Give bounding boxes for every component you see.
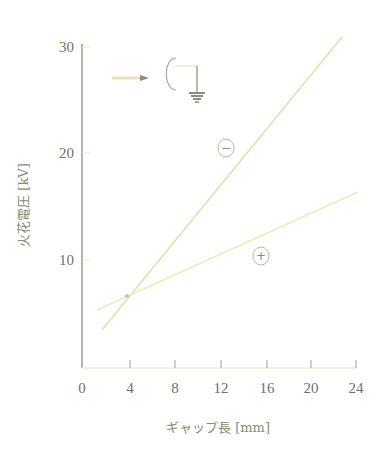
- spark-voltage-chart: 30 20 10 0 4 8 12 16 20 24 ギャップ長 [mm] 火花…: [0, 0, 381, 450]
- series-negative-line: [102, 37, 342, 330]
- negative-symbol: −: [218, 139, 234, 157]
- plate-electrode-icon: [166, 58, 176, 90]
- y-tick-20: 20: [59, 145, 74, 161]
- x-tick-16: 16: [260, 380, 276, 396]
- svg-text:−: −: [221, 141, 231, 155]
- svg-text:+: +: [256, 249, 266, 263]
- y-ticks: 30 20 10: [59, 39, 90, 268]
- positive-symbol: +: [253, 247, 269, 265]
- x-tick-24: 24: [349, 380, 365, 396]
- needle-tip-icon: [140, 75, 149, 81]
- x-ticks: 0 4 8 12 16 20 24: [78, 360, 364, 396]
- y-axis-title: 火花電圧 [kV]: [16, 163, 31, 247]
- electrode-diagram: [112, 58, 205, 102]
- ground-icon: [189, 93, 205, 102]
- x-tick-8: 8: [171, 380, 179, 396]
- x-tick-20: 20: [304, 380, 319, 396]
- x-axis-title: ギャップ長 [mm]: [166, 420, 270, 435]
- x-tick-0: 0: [78, 380, 86, 396]
- y-tick-10: 10: [59, 252, 74, 268]
- y-tick-30: 30: [59, 39, 74, 55]
- x-tick-4: 4: [126, 380, 134, 396]
- x-tick-12: 12: [214, 380, 229, 396]
- series-positive-line: [97, 192, 358, 310]
- intersection-point: [125, 294, 129, 298]
